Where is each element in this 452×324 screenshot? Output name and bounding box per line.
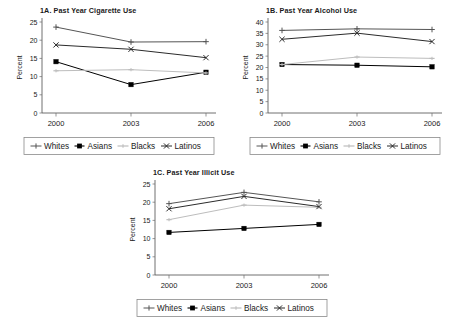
x-tick-label: 2000 [161, 281, 178, 290]
y-tick-label: 0 [260, 110, 264, 117]
legend-marker-cross [387, 143, 398, 148]
legend-label-latinos: Latinos [401, 142, 427, 151]
data-point-marker [241, 204, 246, 207]
legend-marker-plus [31, 143, 42, 148]
legend-label-asians: Asians [88, 142, 113, 151]
series-line-blacks [169, 205, 319, 220]
x-tick-label: 2006 [424, 119, 441, 128]
legend-marker-dash [344, 144, 355, 148]
y-tick-label: 10 [143, 235, 151, 242]
x-tick-label: 2000 [274, 119, 291, 128]
y-tick-label: 15 [256, 75, 264, 82]
y-tick-label: 20 [256, 64, 264, 71]
chart-plot-1c: 0510152025200020032006PercentWhitesAsian… [113, 162, 339, 324]
y-tick-label: 10 [256, 87, 264, 94]
legend-marker-square [188, 306, 198, 311]
legend-marker-dash [118, 144, 129, 148]
legend-label-asians: Asians [201, 304, 226, 313]
legend-label-blacks: Blacks [244, 304, 268, 313]
data-point-marker [128, 68, 133, 71]
y-tick-label: 20 [143, 199, 151, 206]
x-tick-label: 2006 [198, 119, 215, 128]
y-axis-label: Percent [242, 55, 249, 79]
series-line-latinos [56, 45, 206, 58]
y-tick-label: 30 [256, 41, 264, 48]
legend-label-latinos: Latinos [288, 304, 314, 313]
legend-label-latinos: Latinos [175, 142, 201, 151]
y-tick-label: 5 [34, 91, 38, 98]
legend-marker-square [75, 144, 85, 149]
data-point-marker [54, 59, 58, 63]
data-point-marker [53, 69, 58, 72]
y-tick-label: 5 [260, 98, 264, 105]
chart-plot-1b: 0510152025303540200020032006PercentWhite… [226, 0, 452, 162]
y-tick-label: 35 [256, 30, 264, 37]
data-point-marker [128, 39, 134, 45]
data-point-marker [355, 63, 359, 67]
y-axis-label: Percent [16, 55, 23, 79]
legend-label-whites: Whites [270, 142, 295, 151]
chart-panel-1a: 1A. Past Year Cigarette Use 051015202520… [0, 0, 226, 162]
chart-panel-1c: 1C. Past Year Illicit Use 05101520252000… [113, 162, 339, 324]
data-point-marker [429, 27, 435, 33]
data-point-marker [53, 24, 59, 30]
legend-marker-plus [257, 143, 268, 148]
data-point-marker [166, 218, 171, 221]
legend-label-blacks: Blacks [131, 142, 155, 151]
y-tick-label: 25 [143, 181, 151, 188]
data-point-marker [129, 82, 133, 86]
series-line-latinos [282, 33, 432, 41]
x-tick-label: 2000 [48, 119, 65, 128]
legend-label-asians: Asians [314, 142, 339, 151]
y-tick-label: 25 [30, 19, 38, 26]
legend-marker-square [301, 144, 311, 149]
y-tick-label: 25 [256, 53, 264, 60]
y-tick-label: 10 [30, 73, 38, 80]
y-tick-label: 0 [147, 272, 151, 279]
legend-marker-plus [144, 305, 155, 310]
legend-marker-cross [161, 143, 172, 148]
series-line-asians [56, 62, 206, 85]
data-point-marker [203, 39, 209, 45]
legend-label-blacks: Blacks [357, 142, 381, 151]
data-point-marker [279, 28, 285, 34]
data-point-marker [354, 55, 359, 58]
chart-panel-1b: 1B. Past Year Alcohol Use 05101520253035… [226, 0, 452, 162]
x-tick-label: 2003 [236, 281, 253, 290]
legend-marker-cross [274, 305, 285, 310]
y-tick-label: 40 [256, 19, 264, 26]
y-tick-label: 15 [30, 55, 38, 62]
y-tick-label: 5 [147, 253, 151, 260]
chart-plot-1a: 0510152025200020032006PercentWhitesAsian… [0, 0, 226, 162]
data-point-marker [167, 230, 171, 234]
y-axis-label: Percent [129, 217, 136, 241]
legend-marker-dash [231, 306, 242, 310]
data-point-marker [429, 57, 434, 60]
data-point-marker [317, 222, 321, 226]
x-tick-label: 2006 [311, 281, 328, 290]
legend-label-whites: Whites [157, 304, 182, 313]
legend-label-whites: Whites [44, 142, 69, 151]
x-tick-label: 2003 [123, 119, 140, 128]
y-tick-label: 20 [30, 37, 38, 44]
data-point-marker [166, 201, 172, 207]
data-point-marker [430, 65, 434, 69]
data-point-marker [242, 226, 246, 230]
x-tick-label: 2003 [349, 119, 366, 128]
y-tick-label: 15 [143, 217, 151, 224]
y-tick-label: 0 [34, 110, 38, 117]
data-point-marker [316, 199, 322, 205]
